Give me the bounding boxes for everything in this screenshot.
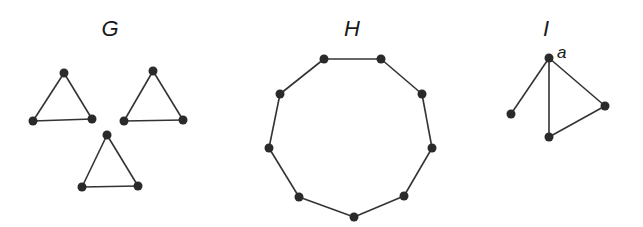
graph-vertex xyxy=(601,102,610,111)
graph-vertex xyxy=(60,69,69,78)
graph-vertex xyxy=(29,117,38,126)
graph-edge xyxy=(153,71,183,120)
graph-edge xyxy=(107,135,138,186)
graph-i: I a xyxy=(507,16,610,142)
graph-edge xyxy=(124,71,153,121)
graph-vertex xyxy=(149,67,158,76)
graph-edge xyxy=(511,58,549,114)
graph-edge xyxy=(33,119,92,121)
graph-vertex xyxy=(134,182,143,191)
graph-vertex xyxy=(265,144,274,153)
graph-edge xyxy=(280,59,324,94)
graph-vertex xyxy=(507,110,516,119)
graph-edge xyxy=(404,148,432,196)
graph-g: G xyxy=(29,16,188,192)
graph-edge xyxy=(422,94,432,148)
graph-diagram: G H I a xyxy=(0,0,643,227)
graph-edge xyxy=(124,120,183,121)
graph-vertex xyxy=(88,115,97,124)
graph-vertex xyxy=(377,55,386,64)
graph-vertex xyxy=(320,55,329,64)
graph-edge xyxy=(33,73,64,121)
graph-vertex xyxy=(428,144,437,153)
graph-vertex xyxy=(179,116,188,125)
graph-vertex xyxy=(350,213,359,222)
graph-vertex xyxy=(400,192,409,201)
graph-label-g: G xyxy=(101,16,118,41)
graph-vertex xyxy=(78,183,87,192)
graph-edge xyxy=(549,106,605,137)
graph-edge xyxy=(269,94,280,148)
graph-vertex xyxy=(295,193,304,202)
graph-vertex xyxy=(276,90,285,99)
graph-vertex xyxy=(418,90,427,99)
vertex-label-a: a xyxy=(557,43,566,62)
graph-edge xyxy=(269,148,299,197)
graph-label-i: I xyxy=(543,16,549,41)
graph-edge xyxy=(381,59,422,94)
graph-edge xyxy=(82,135,107,187)
graph-vertex xyxy=(120,117,129,126)
graph-vertex xyxy=(103,131,112,140)
graph-edge xyxy=(549,58,605,106)
graph-edge xyxy=(354,196,404,217)
graph-label-h: H xyxy=(344,16,360,41)
graph-h: H xyxy=(265,16,437,222)
graph-edge xyxy=(299,197,354,217)
graph-vertex xyxy=(545,54,554,63)
graph-vertex xyxy=(545,133,554,142)
graph-edge xyxy=(82,186,138,187)
graph-edge xyxy=(64,73,92,119)
